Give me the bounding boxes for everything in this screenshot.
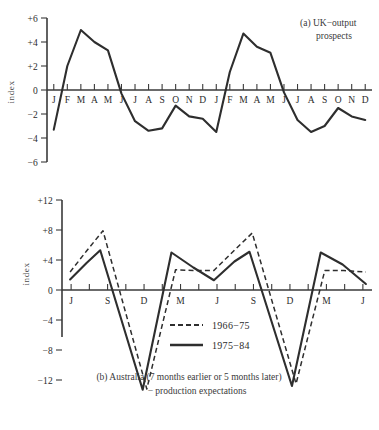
panel-a-xtick-label: S: [159, 95, 164, 105]
panel-a-y-axis-title: index: [6, 81, 16, 104]
panel-b-xtick-label: D: [287, 296, 294, 306]
panel-a-xtick-label: A: [308, 95, 315, 105]
panel-a-xtick-label: F: [65, 95, 70, 105]
panel-b-svg: +12 +8 +4 0 −4 −8 −12 index JSDMJSDMJ 19…: [0, 182, 379, 430]
panel-b-caption-line2: − production expectations: [148, 386, 247, 396]
panel-b-xtick-label: J: [69, 296, 73, 306]
panel-a-xtick-label: S: [322, 95, 327, 105]
panel-a-ytick-label: −4: [27, 134, 38, 144]
panel-b-y-axis-title: index: [21, 263, 31, 286]
panel-b-y-ticks: [56, 200, 62, 380]
panel-a-ytick-label: 0: [33, 86, 38, 96]
panel-a-ytick-label: +6: [27, 14, 38, 24]
panel-a-xtick-label: M: [239, 95, 248, 105]
panel-b-xtick-label: S: [251, 296, 256, 306]
panel-a-y-ticks: [41, 18, 47, 162]
panel-b-ytick-label: −8: [42, 346, 53, 356]
panel-b-xtick-label: S: [105, 296, 110, 306]
panel-b-caption-line1: (b) Australia (7 months earlier or 5 mon…: [96, 372, 281, 383]
panel-a-xtick-label: J: [214, 95, 218, 105]
panel-a-title-line1: (a) UK−output: [300, 18, 357, 29]
panel-a-xtick-label: O: [335, 95, 342, 105]
panel-a-ytick-label: −2: [27, 110, 38, 120]
panel-b-xtick-label: M: [322, 296, 331, 306]
panel-b-legend: 1966−75 1975−84: [170, 320, 250, 351]
panel-b-ytick-label: +4: [42, 256, 53, 266]
panel-b-ytick-label: −4: [42, 316, 53, 326]
panel-a-xtick-label: N: [186, 95, 193, 105]
panel-a-xtick-label: O: [172, 95, 179, 105]
panel-a-xtick-label: J: [52, 95, 56, 105]
panel-b-ytick-label: −12: [38, 376, 54, 386]
panel-b-xtick-label: J: [215, 296, 219, 306]
panel-a-xtick-label: A: [91, 95, 98, 105]
panel-b-xtick-label: D: [141, 296, 148, 306]
panel-a-xtick-label: M: [104, 95, 113, 105]
panel-a-svg: +6 +4 +2 0 −2 −4 −6 index JFMAMJJASONDJF…: [0, 0, 379, 182]
panel-a-x-ticks: JFMAMJJASONDJFMAMJJASOND: [52, 84, 369, 105]
figure-root: +6 +4 +2 0 −2 −4 −6 index JFMAMJJASONDJF…: [0, 0, 379, 430]
panel-a-title-line2: prospects: [316, 31, 352, 41]
panel-b-ytick-label: 0: [48, 286, 53, 296]
panel-a-xtick-label: F: [227, 95, 232, 105]
panel-a-xtick-label: N: [348, 95, 355, 105]
panel-b-ytick-label: +12: [38, 196, 54, 206]
panel-b-xtick-label: J: [361, 296, 365, 306]
panel-b-xtick-label: M: [176, 296, 185, 306]
panel-a-xtick-label: J: [296, 95, 300, 105]
panel-a-xtick-label: D: [199, 95, 206, 105]
panel-a-xtick-label: D: [362, 95, 369, 105]
panel-a-xtick-label: J: [133, 95, 137, 105]
panel-b-ytick-label: +8: [42, 226, 53, 236]
panel-a-ytick-label: +4: [27, 38, 38, 48]
legend-label-1966-75: 1966−75: [212, 320, 250, 331]
panel-a-ytick-label: +2: [27, 62, 38, 72]
panel-b-series-1966-75: [70, 231, 366, 389]
panel-a-series-uk-output: [54, 30, 365, 132]
panel-a-xtick-label: A: [145, 95, 152, 105]
panel-a-ytick-label: −6: [27, 158, 38, 168]
panel-a-xtick-label: M: [77, 95, 86, 105]
legend-label-1975-84: 1975−84: [212, 340, 250, 351]
panel-a-xtick-label: A: [253, 95, 260, 105]
panel-a-xtick-label: M: [266, 95, 275, 105]
chart-panel-a: +6 +4 +2 0 −2 −4 −6 index JFMAMJJASONDJF…: [0, 0, 379, 182]
chart-panel-b: +12 +8 +4 0 −4 −8 −12 index JSDMJSDMJ 19…: [0, 182, 379, 430]
